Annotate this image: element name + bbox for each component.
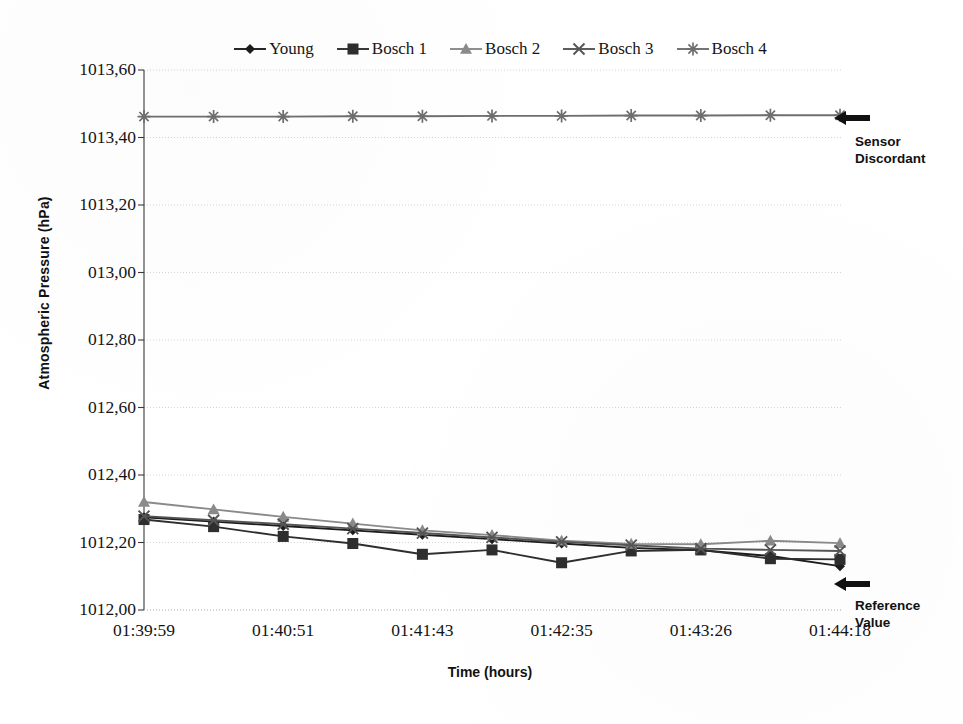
annotation-line: Sensor (855, 134, 959, 151)
annotation-sensor-discordant: SensorDiscordant (855, 134, 959, 168)
marker-bosch-4-4 (416, 110, 429, 123)
marker-young-2 (278, 521, 288, 531)
marker-bosch-4-3 (346, 110, 359, 123)
marker-bosch-1-6 (556, 557, 567, 568)
marker-bosch-1-3 (347, 538, 358, 549)
annotation-line: Reference (855, 598, 959, 615)
reference-value-arrow-icon (832, 576, 872, 592)
annotation-reference-value: ReferenceValue (855, 598, 959, 632)
chart-figure: YoungBosch 1Bosch 2Bosch 3Bosch 4 Atmosp… (0, 0, 963, 724)
annotation-line: Discordant (855, 151, 959, 168)
marker-bosch-4-7 (625, 109, 638, 122)
marker-bosch-1-5 (487, 544, 498, 555)
marker-bosch-4-6 (555, 109, 568, 122)
marker-bosch-4-1 (207, 110, 220, 123)
marker-bosch-2-0 (138, 496, 150, 507)
marker-bosch-4-5 (486, 109, 499, 122)
annotation-line: Value (855, 615, 959, 632)
marker-bosch-4-2 (277, 110, 290, 123)
marker-bosch-4-9 (764, 109, 777, 122)
marker-bosch-1-4 (417, 549, 428, 560)
sensor-discordant-arrow-icon (832, 110, 872, 126)
plot-area (0, 0, 963, 724)
marker-bosch-4-8 (694, 109, 707, 122)
marker-bosch-1-2 (278, 531, 289, 542)
marker-bosch-4-0 (138, 110, 151, 123)
series-bosch-4 (138, 109, 847, 123)
